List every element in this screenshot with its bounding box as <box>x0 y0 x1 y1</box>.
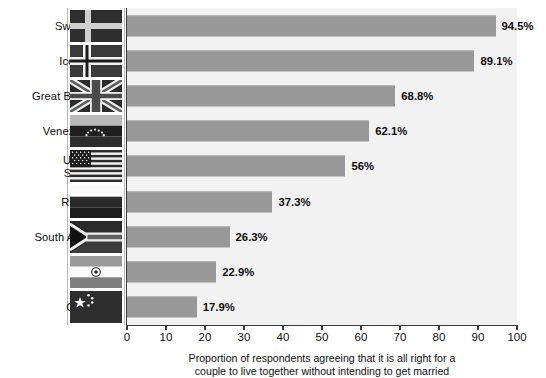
sweden-flag-image <box>70 10 122 42</box>
x-axis-caption: Proportion of respondents agreeing that … <box>127 352 517 378</box>
caption-line-2: couple to live together without intendin… <box>127 365 517 378</box>
bar-value-label: 62.1% <box>375 125 407 137</box>
great-britain-flag <box>70 80 122 112</box>
bar-value-label: 89.1% <box>480 55 512 67</box>
chart-row: Sweden94.5% <box>0 8 546 43</box>
x-tick <box>126 326 127 330</box>
great-britain-flag-image <box>70 80 122 112</box>
bar-value-label: 26.3% <box>236 231 268 243</box>
x-tick <box>243 326 244 330</box>
bar <box>127 15 496 36</box>
iceland-flag <box>70 45 122 77</box>
venezuela-flag <box>70 115 122 147</box>
chart-row: Iceland89.1% <box>0 43 546 78</box>
bar-value-label: 22.9% <box>222 266 254 278</box>
caption-line-1: Proportion of respondents agreeing that … <box>127 352 517 365</box>
bar-value-label: 68.8% <box>401 90 433 102</box>
x-tick-label: 40 <box>277 331 290 343</box>
x-tick-label: 20 <box>199 331 212 343</box>
x-tick <box>165 326 166 330</box>
chart-row: India 22.9% <box>0 255 546 290</box>
chart-row: China 17.9% <box>0 290 546 325</box>
chart-row: UnitedStates 56% <box>0 149 546 184</box>
bar-value-label: 37.3% <box>278 196 310 208</box>
chart-rows: Sweden94.5%Iceland89.1%Great Britain 68.… <box>0 8 546 325</box>
china-flag <box>70 291 122 323</box>
x-tick <box>360 326 361 330</box>
bar-value-label: 94.5% <box>502 20 534 32</box>
chart-row: Russia37.3% <box>0 184 546 219</box>
sweden-flag <box>70 10 122 42</box>
x-tick-label: 0 <box>124 331 130 343</box>
bar <box>127 50 474 71</box>
india-flag <box>70 256 122 288</box>
united-states-flag <box>70 150 122 182</box>
bar-value-label: 17.9% <box>203 301 235 313</box>
bar-chart: 0102030405060708090100 Sweden94.5%Icelan… <box>0 0 546 378</box>
united-states-flag-image <box>70 150 122 182</box>
x-tick-label: 80 <box>433 331 446 343</box>
x-tick <box>477 326 478 330</box>
x-tick-label: 100 <box>507 331 526 343</box>
bar <box>127 226 230 247</box>
south-africa-flag <box>70 221 122 253</box>
bar <box>127 86 395 107</box>
venezuela-flag-image <box>70 115 122 147</box>
chart-row: Great Britain 68.8% <box>0 78 546 113</box>
x-tick-label: 70 <box>394 331 407 343</box>
russia-flag <box>70 186 122 218</box>
x-tick <box>516 326 517 330</box>
russia-flag-image <box>70 186 122 218</box>
x-tick-label: 90 <box>472 331 485 343</box>
chart-row: South Africa 26.3% <box>0 219 546 254</box>
chart-row: Venezuela 62.1% <box>0 114 546 149</box>
china-flag-image <box>70 291 122 323</box>
bar <box>127 191 272 212</box>
south-africa-flag-image <box>70 221 122 253</box>
x-tick <box>438 326 439 330</box>
x-tick-label: 10 <box>160 331 173 343</box>
bar-value-label: 56% <box>351 160 374 172</box>
bar <box>127 121 369 142</box>
x-tick <box>399 326 400 330</box>
bar <box>127 156 345 177</box>
x-tick <box>321 326 322 330</box>
x-tick <box>282 326 283 330</box>
iceland-flag-image <box>70 45 122 77</box>
x-tick-label: 50 <box>316 331 329 343</box>
india-flag-image <box>70 256 122 288</box>
x-tick <box>204 326 205 330</box>
x-tick-label: 30 <box>238 331 251 343</box>
bar <box>127 297 197 318</box>
bar <box>127 262 216 283</box>
x-tick-label: 60 <box>355 331 368 343</box>
